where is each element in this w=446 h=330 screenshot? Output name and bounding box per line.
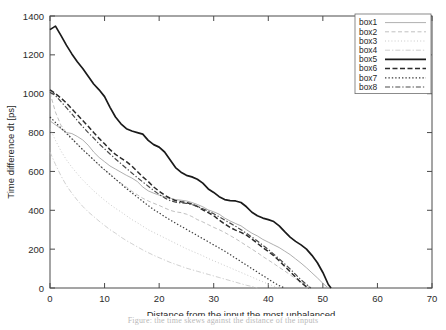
y-tick-label: 1200 [23, 49, 44, 60]
y-axis-title: Time difference dt [ps] [5, 105, 16, 198]
x-axis-title: Distance from the input the most unbalan… [147, 309, 336, 316]
series-line-box4 [50, 152, 257, 288]
x-tick-label: 10 [99, 293, 110, 304]
series-line-box2 [50, 93, 312, 288]
y-tick-label: 1000 [23, 88, 44, 99]
series-line-box6 [50, 90, 309, 288]
series-line-box8 [50, 92, 311, 288]
x-tick-label: 40 [263, 293, 274, 304]
series-layer [50, 26, 331, 288]
y-tick-label: 400 [28, 205, 44, 216]
x-tick-label: 60 [372, 293, 383, 304]
x-tick-label: 70 [427, 293, 438, 304]
legend-label-box8[interactable]: box8 [359, 82, 378, 92]
y-tick-label: 0 [39, 283, 44, 294]
y-tick-label: 1400 [23, 11, 44, 22]
line-chart: 0102030405060700200400600800100012001400… [0, 0, 446, 316]
x-tick-label: 20 [154, 293, 165, 304]
x-tick-label: 30 [208, 293, 219, 304]
series-line-box5 [50, 26, 331, 288]
figure-container: 0102030405060700200400600800100012001400… [0, 0, 446, 330]
figure-caption: Figure: the time skews against the dista… [0, 316, 446, 329]
x-tick-label: 50 [318, 293, 329, 304]
x-tick-label: 0 [47, 293, 52, 304]
y-tick-label: 600 [28, 166, 44, 177]
y-tick-label: 800 [28, 127, 44, 138]
legend[interactable]: box1box2box3box4box5box6box7box8 [355, 14, 431, 94]
y-tick-label: 200 [28, 244, 44, 255]
